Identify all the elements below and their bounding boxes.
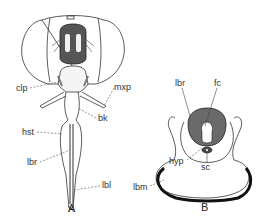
frons-patch	[52, 24, 94, 64]
caption-b: B	[201, 202, 208, 213]
label-hyp: hyp	[169, 157, 184, 166]
label-mxp: mxp	[114, 83, 131, 92]
label-hst: hst	[22, 128, 34, 137]
figure-a-leaders	[30, 82, 114, 190]
label-clp: clp	[16, 84, 28, 93]
proboscis-base	[40, 66, 106, 212]
label-sc: sc	[201, 163, 210, 172]
figure-b-section	[156, 108, 251, 201]
label-lbl: lbl	[102, 181, 111, 190]
caption-a: A	[68, 203, 75, 214]
label-fc: fc	[214, 79, 221, 88]
label-lbm: lbm	[133, 183, 148, 192]
label-bk: bk	[98, 114, 108, 123]
diagram-canvas	[0, 0, 263, 223]
label-lbr-b: lbr	[175, 79, 185, 88]
label-lbr-a: lbr	[27, 158, 37, 167]
